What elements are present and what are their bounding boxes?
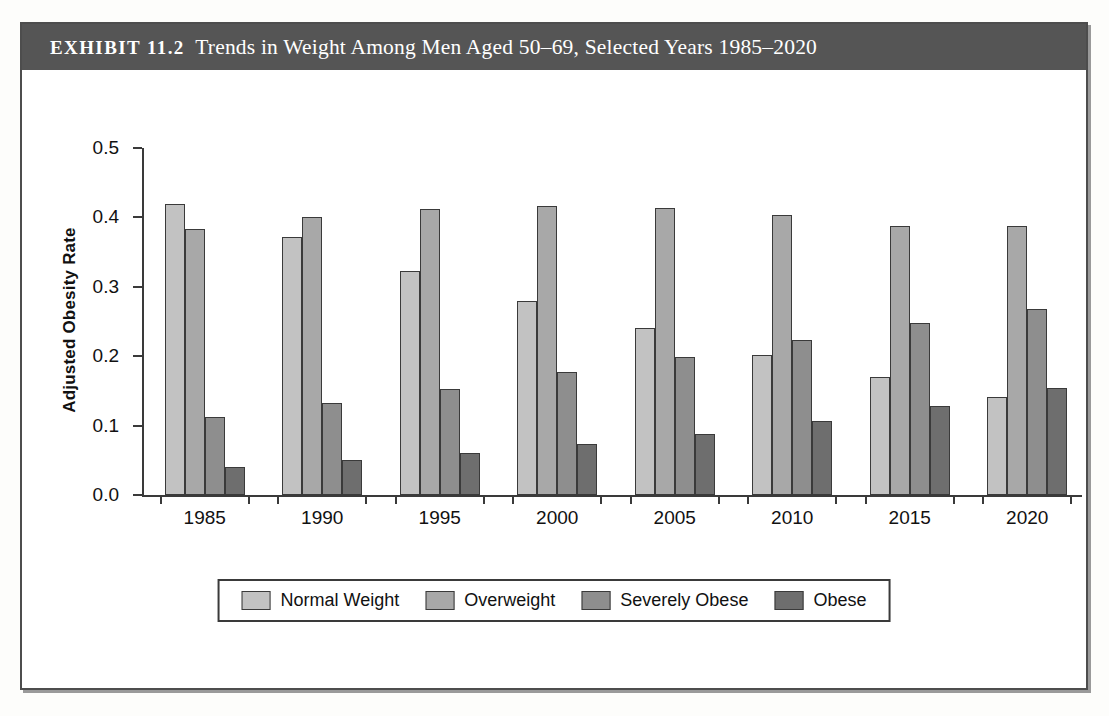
y-axis-tick: 0.3: [133, 286, 142, 288]
bar[interactable]: [772, 215, 792, 495]
x-axis-tick-label: 1990: [301, 507, 343, 529]
x-axis-tick-label: 2010: [771, 507, 813, 529]
x-axis-tick: [865, 497, 867, 504]
x-axis-tick-label: 2020: [1006, 507, 1048, 529]
x-axis-line: [142, 495, 1082, 497]
x-axis-tick: [835, 497, 837, 504]
x-axis-tick: [512, 497, 514, 504]
x-axis-tick-label: 1985: [184, 507, 226, 529]
legend-swatch-icon: [774, 591, 803, 610]
x-axis-tick-label: 1995: [419, 507, 461, 529]
bar[interactable]: [695, 434, 715, 495]
y-axis-tick-label: 0.0: [93, 484, 119, 506]
bar[interactable]: [420, 209, 440, 495]
x-axis-tick: [395, 497, 397, 504]
bar[interactable]: [400, 271, 420, 495]
bar-group: 2000: [495, 148, 613, 495]
exhibit-title-line: EXHIBIT 11.2 Trends in Weight Among Men …: [50, 35, 817, 60]
x-axis-tick: [1070, 497, 1072, 504]
x-axis-tick: [953, 497, 955, 504]
chart-area: Adjusted Obesity Rate 0.00.10.20.30.40.5…: [22, 70, 1086, 692]
bar[interactable]: [752, 355, 772, 495]
x-axis-tick: [365, 497, 367, 504]
y-axis-tick-label: 0.5: [93, 137, 119, 159]
x-axis-tick-label: 2015: [889, 507, 931, 529]
legend-item[interactable]: Normal Weight: [242, 590, 400, 611]
legend-swatch-icon: [581, 591, 610, 610]
exhibit-number-label: EXHIBIT 11.2: [50, 37, 185, 58]
bar[interactable]: [910, 323, 930, 495]
bar[interactable]: [440, 389, 460, 495]
bar[interactable]: [870, 377, 890, 495]
bar[interactable]: [577, 444, 597, 495]
exhibit-title-label: Trends in Weight Among Men Aged 50–69, S…: [195, 35, 817, 59]
bar-group: 1995: [377, 148, 495, 495]
exhibit-frame: EXHIBIT 11.2 Trends in Weight Among Men …: [20, 22, 1088, 690]
y-axis-tick-label: 0.3: [93, 276, 119, 298]
legend-item-label: Severely Obese: [620, 590, 748, 611]
legend-item-label: Obese: [813, 590, 866, 611]
bar[interactable]: [930, 406, 950, 495]
bar-group: 2010: [730, 148, 848, 495]
page-background: EXHIBIT 11.2 Trends in Weight Among Men …: [0, 0, 1109, 716]
bar[interactable]: [792, 340, 812, 495]
bar[interactable]: [517, 301, 537, 495]
y-axis-title: Adjusted Obesity Rate: [60, 210, 80, 430]
bar[interactable]: [890, 226, 910, 495]
y-axis-tick: 0.5: [133, 147, 142, 149]
bar[interactable]: [812, 421, 832, 495]
bar[interactable]: [1027, 309, 1047, 495]
bar[interactable]: [557, 372, 577, 495]
x-axis-tick: [747, 497, 749, 504]
bar-group: 2020: [965, 148, 1083, 495]
bar[interactable]: [225, 467, 245, 495]
y-axis-tick: 0.0: [133, 494, 142, 496]
y-axis-tick: 0.2: [133, 355, 142, 357]
x-axis-tick: [600, 497, 602, 504]
legend-item[interactable]: Obese: [774, 590, 866, 611]
bar[interactable]: [635, 328, 655, 495]
plot-area: 0.00.10.20.30.40.5 198519901995200020052…: [142, 148, 1082, 495]
bar[interactable]: [185, 229, 205, 495]
legend-item[interactable]: Overweight: [425, 590, 555, 611]
exhibit-title-bar: EXHIBIT 11.2 Trends in Weight Among Men …: [22, 24, 1086, 70]
x-axis-tick: [160, 497, 162, 504]
chart-legend: Normal WeightOverweightSeverely ObeseObe…: [218, 579, 891, 622]
y-axis-tick-label: 0.4: [93, 206, 119, 228]
x-axis-tick: [630, 497, 632, 504]
bar[interactable]: [205, 417, 225, 495]
bar[interactable]: [302, 217, 322, 495]
bar-group: 1985: [142, 148, 260, 495]
x-axis-tick-label: 2005: [654, 507, 696, 529]
y-axis-tick-label: 0.2: [93, 345, 119, 367]
bar[interactable]: [1007, 226, 1027, 495]
bar[interactable]: [322, 403, 342, 495]
bar[interactable]: [342, 460, 362, 495]
bar[interactable]: [537, 206, 557, 495]
x-axis-tick: [248, 497, 250, 504]
legend-item-label: Overweight: [464, 590, 555, 611]
bar[interactable]: [655, 208, 675, 495]
bar[interactable]: [282, 237, 302, 495]
bar-group: 2005: [612, 148, 730, 495]
legend-item-label: Normal Weight: [281, 590, 400, 611]
bar[interactable]: [165, 204, 185, 495]
y-axis-tick-label: 0.1: [93, 415, 119, 437]
bar-group: 2015: [847, 148, 965, 495]
y-axis-tick: 0.4: [133, 216, 142, 218]
bar-group: 1990: [260, 148, 378, 495]
legend-swatch-icon: [425, 591, 454, 610]
bar[interactable]: [460, 453, 480, 495]
x-axis-tick: [718, 497, 720, 504]
legend-item[interactable]: Severely Obese: [581, 590, 748, 611]
x-axis-tick: [982, 497, 984, 504]
bar[interactable]: [1047, 388, 1067, 495]
legend-swatch-icon: [242, 591, 271, 610]
bar[interactable]: [675, 357, 695, 495]
x-axis-tick: [277, 497, 279, 504]
x-axis-tick-label: 2000: [536, 507, 578, 529]
x-axis-tick: [483, 497, 485, 504]
y-axis-tick: 0.1: [133, 425, 142, 427]
bar[interactable]: [987, 397, 1007, 495]
